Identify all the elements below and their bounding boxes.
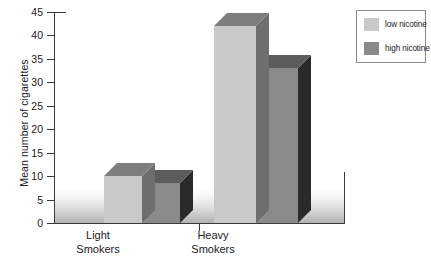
y-tick-mark: 20	[47, 129, 54, 130]
y-tick-mark: 0	[47, 223, 54, 224]
legend-item-high-nicotine: high nicotine	[364, 42, 419, 55]
chart-legend: low nicotine high nicotine	[356, 10, 426, 63]
x-category-label: HeavySmokers	[153, 228, 273, 256]
bar-side-face	[256, 13, 269, 223]
x-category-label-line2: Smokers	[153, 242, 273, 256]
y-tick-label: 25	[31, 100, 43, 112]
legend-label-low-nicotine: low nicotine	[385, 20, 427, 29]
x-category-label-line1: Heavy	[153, 228, 273, 242]
y-tick-mark: 25	[47, 106, 54, 107]
legend-label-high-nicotine: high nicotine	[385, 44, 430, 53]
y-tick-label: 5	[37, 194, 43, 206]
right-axis-stub	[344, 172, 345, 224]
y-tick-label: 20	[31, 123, 43, 135]
top-axis-stub	[54, 12, 66, 13]
bar-side-face	[298, 55, 311, 223]
y-tick-mark: 10	[47, 176, 54, 177]
y-axis-line	[54, 12, 55, 224]
y-tick-label: 35	[31, 53, 43, 65]
y-tick-mark: 5	[47, 200, 54, 201]
y-tick-label: 15	[31, 147, 43, 159]
plot-area: 051015202530354045	[54, 12, 345, 224]
x-category-label: LightSmokers	[38, 228, 158, 256]
legend-item-low-nicotine: low nicotine	[364, 18, 419, 31]
legend-swatch-low-nicotine	[364, 18, 379, 31]
bar-front-face	[214, 26, 256, 223]
y-tick-label: 10	[31, 170, 43, 182]
y-tick-mark: 15	[47, 153, 54, 154]
y-tick-mark: 45	[47, 12, 54, 13]
x-category-label-line2: Smokers	[38, 242, 158, 256]
bar-chart: Mean number of cigarettes 05101520253035…	[0, 0, 431, 262]
y-tick-label: 40	[31, 29, 43, 41]
y-tick-mark: 40	[47, 35, 54, 36]
y-tick-label: 30	[31, 76, 43, 88]
legend-swatch-high-nicotine	[364, 42, 379, 55]
x-category-label-line1: Light	[38, 228, 158, 242]
y-tick-mark: 30	[47, 82, 54, 83]
bar-front-face	[104, 176, 142, 223]
bar-low-nicotine	[104, 176, 142, 223]
y-tick-label: 45	[31, 6, 43, 18]
y-tick-mark: 35	[47, 59, 54, 60]
y-axis-title: Mean number of cigarettes	[18, 38, 30, 208]
bar-low-nicotine	[214, 26, 256, 223]
